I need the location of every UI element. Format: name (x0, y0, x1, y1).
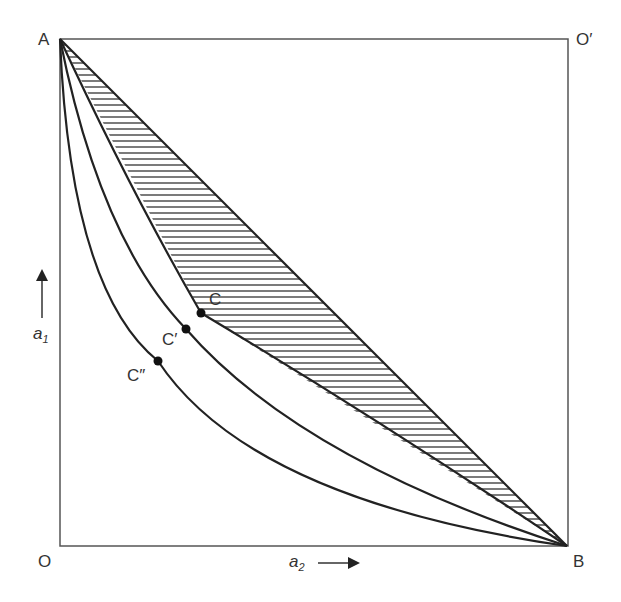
diagonal-AB (60, 39, 567, 546)
label-a1: a1 (33, 324, 49, 345)
point-C-prime (182, 325, 191, 334)
label-C-dprime: C″ (127, 366, 145, 386)
label-C: C (209, 290, 221, 310)
label-C-prime: C′ (162, 330, 177, 350)
point-C-dprime (154, 357, 163, 366)
label-A: A (38, 30, 49, 50)
label-a2: a2 (289, 552, 305, 573)
point-C (197, 309, 206, 318)
label-O-prime: O′ (576, 30, 592, 50)
a2-arrow-head-icon (348, 557, 360, 569)
label-B: B (573, 552, 584, 572)
label-O: O (38, 552, 51, 572)
edgeworth-box-diagram (0, 0, 621, 602)
a1-arrow-head-icon (36, 269, 48, 281)
